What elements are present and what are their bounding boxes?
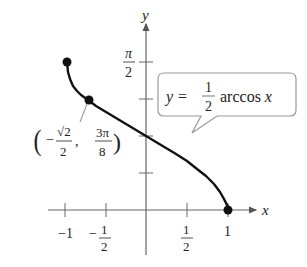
point-right-endpoint: [224, 206, 233, 215]
svg-text:2: 2: [60, 144, 67, 159]
svg-text:arccos x: arccos x: [220, 88, 272, 105]
svg-text:1: 1: [205, 80, 212, 95]
svg-text:8: 8: [99, 144, 106, 159]
point-mid: [85, 96, 94, 105]
svg-text:(: (: [34, 123, 42, 156]
y-tick-pihalf-den: 2: [125, 65, 132, 80]
point-label: ( − √2 2 , 3π 8 ): [34, 123, 121, 159]
y-tick-pihalf-num: π: [125, 46, 133, 61]
x-tick-half-num: 1: [183, 222, 190, 237]
x-tick-neghalf-sign: −: [89, 226, 97, 241]
svg-text:): ): [113, 129, 121, 155]
svg-text:−: −: [46, 132, 54, 147]
point-left-endpoint: [63, 58, 72, 67]
x-tick-neg1: −1: [58, 226, 73, 241]
svg-text:√2: √2: [57, 124, 71, 139]
x-tick-neghalf-den: 2: [101, 239, 108, 254]
svg-text:2: 2: [205, 99, 212, 114]
function-callout: y = 1 2 arccos x: [158, 73, 296, 133]
svg-text:3π: 3π: [96, 125, 110, 140]
svg-text:y =: y =: [164, 88, 188, 106]
x-tick-neghalf-num: 1: [101, 222, 108, 237]
x-tick-1: 1: [224, 224, 231, 239]
x-tick-half-den: 2: [183, 239, 190, 254]
y-axis-label: y: [140, 7, 149, 23]
x-axis-label: x: [261, 202, 269, 218]
arccos-graph: x y −1 − 1 2 1 2 1 π 2 ( − √2 2 , 3π 8: [0, 0, 307, 267]
svg-text:,: ,: [75, 134, 79, 149]
